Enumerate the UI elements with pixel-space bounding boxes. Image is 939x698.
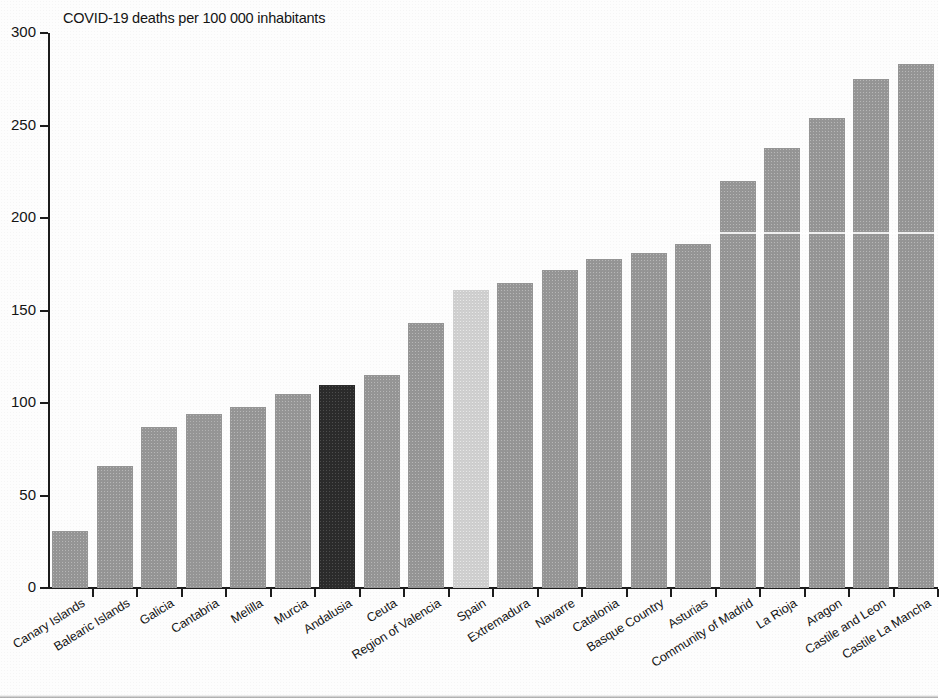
y-axis-tick-label: 0 xyxy=(0,578,36,595)
x-axis-label: Basque Country xyxy=(584,596,666,655)
y-axis-tick-label: 150 xyxy=(0,301,36,318)
y-axis-tick xyxy=(40,310,48,312)
chart-title: COVID-19 deaths per 100 000 inhabitants xyxy=(63,10,325,26)
x-axis-category-labels: Canary IslandsBalearic IslandsGaliciaCan… xyxy=(0,596,938,698)
y-axis-tick-label: 50 xyxy=(0,486,36,503)
bar xyxy=(631,253,667,588)
bar xyxy=(97,466,133,588)
bar xyxy=(675,244,711,588)
y-axis-tick xyxy=(40,495,48,497)
x-axis-label: Cantabria xyxy=(169,596,222,636)
y-axis-tick xyxy=(40,402,48,404)
bar xyxy=(764,148,800,588)
bar xyxy=(230,407,266,588)
bar xyxy=(319,385,355,589)
x-axis-label: Balearic Islands xyxy=(51,596,132,654)
bar xyxy=(809,118,845,588)
bar xyxy=(141,427,177,588)
bar xyxy=(364,375,400,588)
bar xyxy=(497,283,533,588)
bar xyxy=(453,290,489,588)
bar xyxy=(898,64,934,588)
y-axis-tick-label: 100 xyxy=(0,393,36,410)
x-axis-label: Melilla xyxy=(229,596,266,626)
plot-area xyxy=(48,33,938,588)
bar xyxy=(52,531,88,588)
y-axis-tick xyxy=(40,217,48,219)
bar xyxy=(408,323,444,588)
y-axis-tick xyxy=(40,587,48,589)
y-axis-tick-label: 250 xyxy=(0,116,36,133)
bar xyxy=(186,414,222,588)
bar xyxy=(720,181,756,588)
x-axis-label: La Rioja xyxy=(754,596,800,632)
x-axis-label: Andalusia xyxy=(301,596,354,636)
y-axis-tick-label: 300 xyxy=(0,23,36,40)
y-axis-tick-label: 200 xyxy=(0,208,36,225)
y-axis-tick xyxy=(40,32,48,34)
x-axis-label: Spain xyxy=(454,596,488,625)
bar xyxy=(586,259,622,588)
y-axis-tick xyxy=(40,125,48,127)
bar xyxy=(853,79,889,588)
bar xyxy=(275,394,311,588)
bar xyxy=(542,270,578,588)
